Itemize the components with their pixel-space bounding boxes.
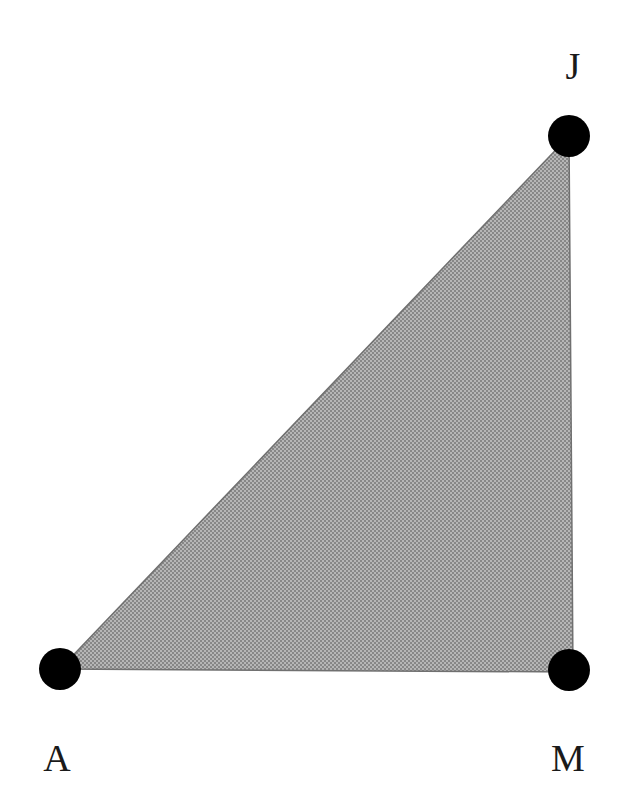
- figure-canvas: J A M: [0, 0, 621, 808]
- vertex-dot-j[interactable]: [548, 115, 590, 157]
- vertex-label-j: J: [566, 47, 581, 85]
- triangle-diagram-svg: [0, 0, 621, 808]
- vertex-dot-a[interactable]: [39, 648, 81, 690]
- vertex-label-a: A: [43, 739, 70, 777]
- vertex-dot-m[interactable]: [548, 649, 590, 691]
- vertex-label-m: M: [551, 739, 585, 777]
